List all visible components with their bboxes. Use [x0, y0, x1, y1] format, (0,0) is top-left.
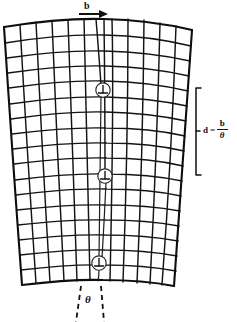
diagram-figure: b θ d = b θ Schematic of a small-angle t… — [0, 0, 237, 322]
extra-half-planes — [96, 19, 106, 281]
tilt-angle-label: θ — [85, 294, 91, 305]
spacing-bracket — [196, 88, 201, 175]
equation-fraction: b θ — [217, 119, 228, 140]
dislocation-symbol-2 — [98, 169, 112, 183]
tilt-boundary-diagram — [0, 0, 237, 322]
equation-numerator: b — [218, 119, 227, 129]
equation-lhs-d: d — [203, 125, 208, 135]
lattice-vertical-lines-left — [4, 19, 90, 285]
dislocation-symbol-1 — [96, 83, 110, 97]
burgers-vector-label: b — [84, 1, 90, 11]
spacing-equation: d = b θ — [203, 119, 228, 140]
equation-equals-sign: = — [210, 125, 215, 135]
dislocation-symbol-3 — [92, 256, 106, 270]
burgers-vector-arrow — [79, 10, 108, 18]
lattice-horizontal-lines — [4, 19, 192, 286]
equation-denominator: θ — [218, 130, 227, 140]
